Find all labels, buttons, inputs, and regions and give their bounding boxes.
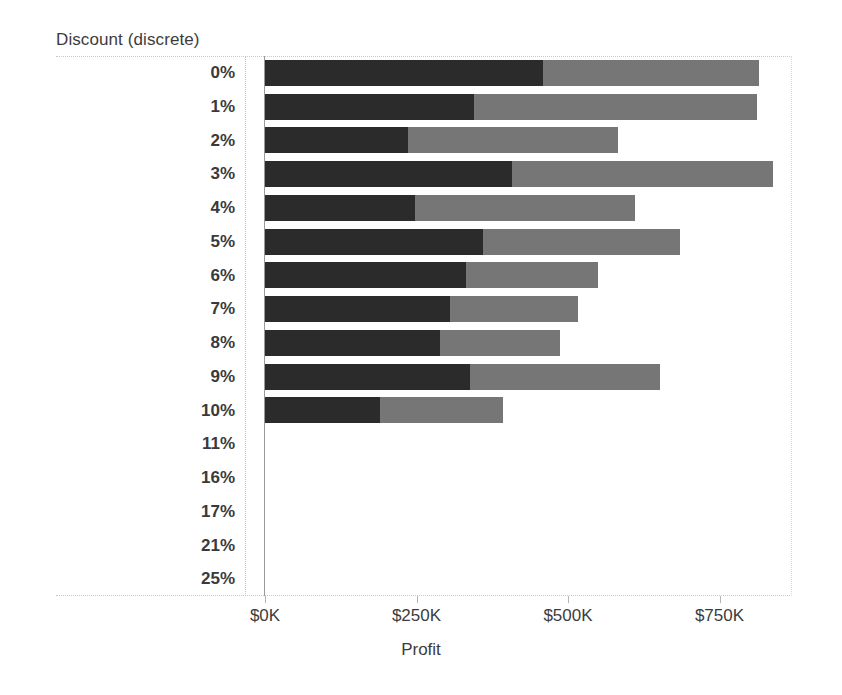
x-axis-tick-label: $750K <box>695 606 744 626</box>
y-axis-tick-label: 21% <box>60 529 235 563</box>
bar-segment-segment-light[interactable] <box>483 229 679 255</box>
bar-segment-segment-light[interactable] <box>543 60 759 86</box>
y-axis-tick-label: 3% <box>60 157 235 191</box>
bar-segment-segment-light[interactable] <box>512 161 773 187</box>
stacked-bar[interactable] <box>265 229 785 255</box>
stacked-bar[interactable] <box>265 532 785 558</box>
bar-row: 0% <box>0 56 842 90</box>
bar-segment-segment-dark[interactable] <box>265 330 440 356</box>
stacked-bar[interactable] <box>265 330 785 356</box>
stacked-bar[interactable] <box>265 364 785 390</box>
bar-segment-segment-light[interactable] <box>450 296 578 322</box>
y-axis-tick-label: 25% <box>60 562 235 596</box>
bar-row: 8% <box>0 326 842 360</box>
stacked-bar[interactable] <box>265 161 785 187</box>
x-axis-tick <box>265 596 266 603</box>
x-axis-tick-label: $500K <box>543 606 592 626</box>
bar-row: 6% <box>0 259 842 293</box>
bar-row: 16% <box>0 461 842 495</box>
y-axis-tick-label: 0% <box>60 56 235 90</box>
y-axis-tick-label: 9% <box>60 360 235 394</box>
bar-segment-segment-light[interactable] <box>474 94 757 120</box>
bar-row: 21% <box>0 529 842 563</box>
bar-rows: 0%1%2%3%4%5%6%7%8%9%10%11%16%17%21%25% <box>0 56 842 596</box>
bar-row: 17% <box>0 495 842 529</box>
stacked-bar[interactable] <box>265 127 785 153</box>
x-axis-tick-label: $250K <box>392 606 441 626</box>
x-axis-title: Profit <box>0 640 842 660</box>
y-axis-tick-label: 2% <box>60 124 235 158</box>
x-axis-tick-label: $0K <box>250 606 280 626</box>
stacked-bar[interactable] <box>265 262 785 288</box>
bar-segment-segment-dark[interactable] <box>265 94 474 120</box>
bar-row: 9% <box>0 360 842 394</box>
stacked-bar[interactable] <box>265 465 785 491</box>
bar-segment-segment-light[interactable] <box>470 364 660 390</box>
x-axis-tick <box>568 596 569 603</box>
stacked-bar[interactable] <box>265 195 785 221</box>
bar-row: 10% <box>0 394 842 428</box>
bar-segment-segment-dark[interactable] <box>265 364 470 390</box>
bar-row: 3% <box>0 157 842 191</box>
y-axis-tick-label: 8% <box>60 326 235 360</box>
bar-row: 7% <box>0 292 842 326</box>
bar-segment-segment-dark[interactable] <box>265 296 450 322</box>
y-axis-tick-label: 10% <box>60 394 235 428</box>
y-axis-tick-label: 1% <box>60 90 235 124</box>
bar-chart: Discount (discrete) 0%1%2%3%4%5%6%7%8%9%… <box>0 0 842 695</box>
bar-segment-segment-dark[interactable] <box>265 127 408 153</box>
bar-row: 1% <box>0 90 842 124</box>
stacked-bar[interactable] <box>265 431 785 457</box>
bar-row: 25% <box>0 562 842 596</box>
bar-segment-segment-dark[interactable] <box>265 60 543 86</box>
stacked-bar[interactable] <box>265 397 785 423</box>
stacked-bar[interactable] <box>265 566 785 592</box>
x-axis-tick <box>417 596 418 603</box>
x-axis-ticks <box>0 596 842 606</box>
y-axis-tick-label: 4% <box>60 191 235 225</box>
bar-segment-segment-light[interactable] <box>380 397 503 423</box>
y-axis-field-caption: Discount (discrete) <box>56 30 200 50</box>
bar-segment-segment-dark[interactable] <box>265 262 466 288</box>
stacked-bar[interactable] <box>265 499 785 525</box>
y-axis-tick-label: 6% <box>60 259 235 293</box>
bar-segment-segment-dark[interactable] <box>265 195 415 221</box>
x-axis-tick-labels: $0K$250K$500K$750K <box>0 606 842 632</box>
bar-segment-segment-light[interactable] <box>440 330 560 356</box>
y-axis-tick-label: 5% <box>60 225 235 259</box>
bar-segment-segment-light[interactable] <box>466 262 598 288</box>
stacked-bar[interactable] <box>265 296 785 322</box>
y-axis-tick-label: 16% <box>60 461 235 495</box>
stacked-bar[interactable] <box>265 94 785 120</box>
bar-row: 2% <box>0 124 842 158</box>
bar-segment-segment-light[interactable] <box>408 127 618 153</box>
x-axis-tick <box>720 596 721 603</box>
bar-row: 11% <box>0 427 842 461</box>
bar-segment-segment-dark[interactable] <box>265 161 512 187</box>
bar-row: 5% <box>0 225 842 259</box>
y-axis-tick-label: 17% <box>60 495 235 529</box>
bar-segment-segment-dark[interactable] <box>265 397 380 423</box>
bar-segment-segment-dark[interactable] <box>265 229 483 255</box>
stacked-bar[interactable] <box>265 60 785 86</box>
bar-segment-segment-light[interactable] <box>415 195 635 221</box>
bar-row: 4% <box>0 191 842 225</box>
y-axis-tick-label: 11% <box>60 427 235 461</box>
y-axis-tick-label: 7% <box>60 292 235 326</box>
